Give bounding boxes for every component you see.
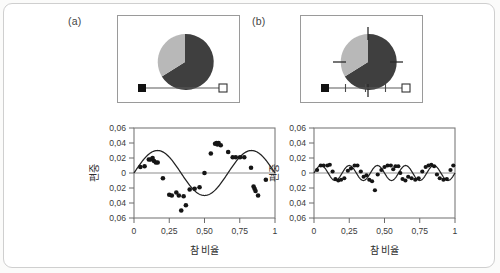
panel-b: (b) bbox=[240, 0, 455, 273]
y-tick-label: 0,02 bbox=[289, 183, 306, 193]
data-point bbox=[155, 160, 160, 165]
data-point bbox=[438, 176, 442, 180]
y-tick-label: 0,04 bbox=[289, 198, 306, 208]
slider-end-marker[interactable] bbox=[219, 84, 227, 92]
x-tick-labels: 0 0,25 0,50 0,75 1 bbox=[312, 226, 458, 236]
data-point bbox=[202, 171, 207, 176]
data-point bbox=[138, 165, 143, 170]
panel-a: (a) bbox=[48, 0, 258, 273]
panel-b-plot: 0,06 0,04 0,02 0 0,02 0,04 0,06 0 bbox=[262, 120, 472, 265]
data-point bbox=[209, 151, 214, 156]
data-point bbox=[451, 163, 455, 167]
y-tick-label: 0,02 bbox=[109, 153, 126, 163]
panel-b-plot-canvas: 0,06 0,04 0,02 0 0,02 0,04 0,06 0 bbox=[262, 120, 472, 265]
panel-b-widget-canvas bbox=[301, 16, 422, 102]
data-point bbox=[398, 171, 402, 175]
y-axis-title: 편중 bbox=[89, 164, 100, 182]
data-point bbox=[234, 155, 239, 160]
data-point bbox=[192, 186, 197, 191]
data-point bbox=[403, 178, 407, 182]
data-point bbox=[448, 168, 452, 172]
data-point bbox=[445, 177, 449, 181]
x-axis-ticks bbox=[314, 218, 455, 223]
y-axis-title: 편중 bbox=[269, 164, 280, 182]
y-tick-labels: 0,06 0,04 0,02 0 0,02 0,04 0,06 bbox=[109, 123, 126, 223]
data-point bbox=[187, 187, 192, 192]
data-point bbox=[315, 168, 319, 172]
data-point bbox=[197, 185, 202, 190]
data-point bbox=[417, 176, 421, 180]
x-tick-label: 0,25 bbox=[161, 226, 178, 236]
data-point bbox=[179, 208, 184, 213]
data-point bbox=[355, 163, 359, 167]
slider-handle[interactable] bbox=[321, 84, 329, 92]
data-point bbox=[432, 164, 436, 168]
y-tick-label: 0,06 bbox=[109, 213, 126, 223]
x-tick-label: 0,50 bbox=[376, 226, 393, 236]
panel-a-pie-chart[interactable] bbox=[158, 34, 214, 90]
panel-a-tag: (a) bbox=[68, 15, 81, 27]
data-point bbox=[218, 143, 223, 148]
data-point bbox=[321, 163, 325, 167]
data-point bbox=[420, 169, 424, 173]
data-point bbox=[389, 163, 393, 167]
data-point bbox=[161, 176, 166, 181]
y-tick-label: 0,06 bbox=[289, 213, 306, 223]
data-point bbox=[435, 172, 439, 176]
data-point bbox=[184, 203, 189, 208]
data-point bbox=[328, 163, 332, 167]
y-tick-label: 0,04 bbox=[289, 138, 306, 148]
panel-b-slider[interactable] bbox=[321, 84, 410, 92]
data-point bbox=[177, 193, 182, 198]
y-tick-label: 0,02 bbox=[289, 153, 306, 163]
slider-handle[interactable] bbox=[138, 84, 146, 92]
y-tick-label: 0,02 bbox=[109, 183, 126, 193]
panel-b-tag: (b) bbox=[252, 15, 265, 27]
y-tick-label: 0,04 bbox=[109, 198, 126, 208]
data-point bbox=[169, 193, 174, 198]
y-tick-label: 0 bbox=[121, 168, 126, 178]
x-axis-title: 참 비율 bbox=[190, 245, 220, 256]
x-tick-label: 0 bbox=[312, 226, 317, 236]
y-axis-ticks bbox=[129, 128, 134, 218]
panel-a-pie-slider-widget[interactable] bbox=[117, 15, 240, 103]
y-tick-label: 0,04 bbox=[109, 138, 126, 148]
slider-end-marker[interactable] bbox=[402, 84, 410, 92]
data-point bbox=[349, 166, 353, 170]
data-point bbox=[364, 173, 368, 177]
data-point bbox=[142, 164, 147, 169]
data-point bbox=[409, 176, 413, 180]
y-tick-label: 0,06 bbox=[289, 123, 306, 133]
data-point bbox=[181, 194, 186, 199]
x-tick-label: 0,50 bbox=[196, 226, 213, 236]
panel-a-widget-canvas bbox=[118, 16, 239, 102]
x-tick-label: 0,25 bbox=[341, 226, 358, 236]
x-tick-label: 0,75 bbox=[411, 226, 428, 236]
data-point bbox=[226, 150, 231, 155]
data-point bbox=[359, 169, 363, 173]
x-axis-title: 참 비율 bbox=[370, 245, 400, 256]
x-tick-label: 1 bbox=[453, 226, 458, 236]
y-tick-labels: 0,06 0,04 0,02 0 0,02 0,04 0,06 bbox=[289, 123, 306, 223]
panel-b-pie-slider-widget[interactable] bbox=[300, 15, 423, 103]
y-axis-ticks bbox=[309, 128, 314, 218]
data-point bbox=[331, 169, 335, 173]
data-point bbox=[342, 176, 346, 180]
figure-root: (a) bbox=[0, 0, 500, 273]
data-point bbox=[376, 172, 380, 176]
data-point bbox=[396, 164, 400, 168]
panel-b-pie-chart[interactable] bbox=[333, 27, 403, 97]
y-tick-label: 0,06 bbox=[109, 123, 126, 133]
data-point bbox=[373, 188, 377, 192]
data-point bbox=[370, 179, 374, 183]
y-tick-label: 0 bbox=[301, 168, 306, 178]
x-tick-label: 0 bbox=[132, 226, 137, 236]
data-point bbox=[379, 168, 383, 172]
